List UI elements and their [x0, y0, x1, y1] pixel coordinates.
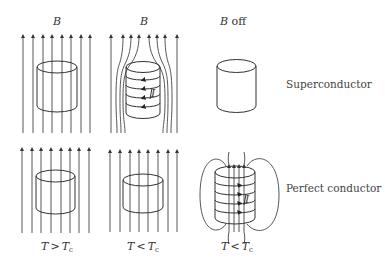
row-label-perfect-conductor: Perfect conductor: [286, 182, 382, 194]
bottom-right-temp-label: T<Tc: [221, 240, 253, 254]
top-left-b-label: B: [52, 15, 61, 28]
bottom-left-field-lines: [22, 149, 89, 233]
bottom-middle-cylinder: [123, 174, 163, 213]
bottom-middle-field-lines: [110, 151, 177, 232]
top-right-cylinder: [217, 60, 256, 113]
bottom-right-current-label: I: [244, 193, 250, 206]
bottom-left-cylinder: [36, 170, 75, 214]
top-left-field-lines: [23, 36, 90, 133]
top-middle-b-label: B: [139, 15, 148, 28]
top-right-b-off-label: B off: [219, 15, 247, 28]
bottom-middle-temp-label: T<Tc: [127, 240, 159, 254]
meissner-effect-diagram: B B B off I: [0, 0, 385, 265]
row-label-superconductor: Superconductor: [286, 78, 373, 90]
top-middle-current-label: I: [150, 87, 156, 100]
bottom-left-temp-label: T>Tc: [41, 240, 73, 254]
b-off-suffix: off: [228, 15, 247, 28]
